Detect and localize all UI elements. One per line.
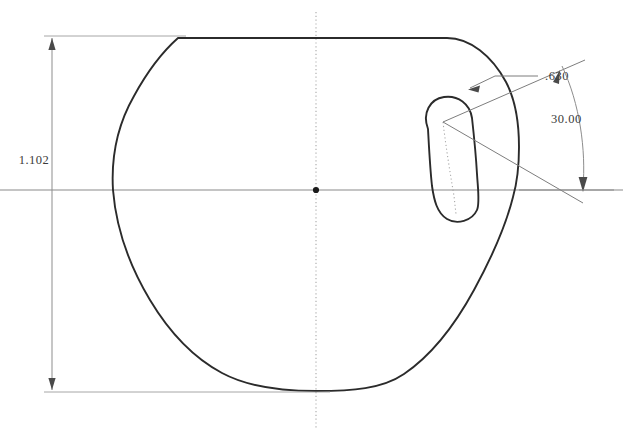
- dimension-value-angle: 30.00: [551, 112, 582, 126]
- arrowhead-bottom: [48, 378, 55, 390]
- slot-angle-lower-leg: [443, 122, 583, 203]
- dimension-overall-height: 1.102: [19, 36, 330, 392]
- dimension-slot-angle: 30.00: [519, 66, 614, 192]
- slot-feature-group: [426, 97, 479, 222]
- leader-angled-segment: [470, 76, 495, 88]
- slot-centerline: [443, 122, 456, 214]
- arrowhead-top: [48, 38, 55, 50]
- origin-center-point: [313, 187, 319, 193]
- angular-arc: [562, 66, 584, 188]
- technical-drawing-svg: 1.102 .630: [0, 0, 623, 438]
- slot-outline-path: [426, 97, 479, 222]
- centerlines-group: [0, 12, 623, 428]
- dimension-value-height: 1.102: [19, 153, 50, 167]
- dimension-value-slot-offset: .630: [545, 69, 569, 83]
- cad-drawing-canvas: 1.102 .630: [0, 0, 623, 438]
